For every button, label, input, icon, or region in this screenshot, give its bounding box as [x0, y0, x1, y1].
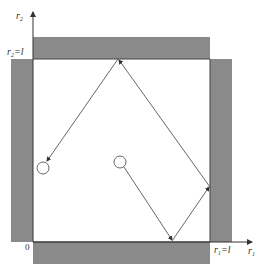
- trajectory-segment-3: [119, 60, 210, 187]
- particles: [37, 156, 126, 174]
- top-wall: [33, 37, 210, 59]
- right-wall: [210, 59, 232, 242]
- start-particle-icon: [114, 156, 126, 168]
- r2-axis-label: r2: [16, 10, 23, 22]
- end-particle-icon: [37, 162, 49, 174]
- billiard-reflection-diagram: r2 r2=l 0 r1=l r1: [0, 0, 266, 272]
- r1-boundary-label: r1=l: [214, 244, 231, 256]
- trajectory-segment-2: [172, 187, 209, 241]
- r2-boundary-label: r2=l: [7, 46, 24, 58]
- bottom-wall: [33, 242, 210, 264]
- left-wall: [11, 59, 33, 242]
- r1-axis-label: r1: [248, 245, 255, 257]
- trajectory-segment-4: [47, 59, 118, 161]
- walls: [11, 37, 232, 264]
- trajectory: [47, 59, 210, 241]
- trajectory-segment-1: [124, 167, 172, 240]
- origin-label: 0: [25, 242, 30, 252]
